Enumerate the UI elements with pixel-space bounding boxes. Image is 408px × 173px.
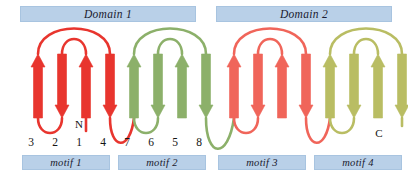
strand-arrow-s9 [275,54,289,118]
strand-arrow-s10 [251,54,265,118]
strand-arrow-s4 [103,54,117,118]
strand-number-8: 8 [192,136,206,148]
strand-number-5: 5 [168,136,182,148]
motif-3-label: motif 3 [246,157,278,168]
loop-3-4 [38,29,110,55]
strand-arrow-s3 [31,54,45,118]
strand-arrow-s6 [151,54,165,118]
loop-1-2 [62,39,86,54]
loop-10-9 [258,39,282,54]
topology-diagram-canvas: Domain 1 Domain 2 motif 1 motif 2 motif … [0,0,408,173]
domain-1-label: Domain 1 [84,8,132,20]
strand-number-4: 4 [96,136,110,148]
strand-arrow-s2 [55,54,69,118]
domain-2-label: Domain 2 [280,8,328,20]
motif-4-bar: motif 4 [314,155,402,170]
strand-arrow-s8 [199,54,213,118]
terminus-label-n: N [72,118,86,130]
loop-14-13 [354,39,378,54]
strand-arrow-s16 [395,54,408,118]
loop-12-15 [306,118,330,143]
motif-3-bar: motif 3 [218,155,306,170]
loop-7-6 [134,118,158,133]
interdomain-loop [206,118,234,149]
terminus-label-c: C [372,127,386,139]
loop-15-14 [330,118,354,133]
strand-arrow-s5 [175,54,189,118]
domain-2-bar: Domain 2 [216,6,392,22]
loop-7-8 [134,29,206,55]
motif-4-label: motif 4 [342,157,374,168]
strand-arrow-s7 [127,54,141,118]
loop-15-16 [330,29,402,55]
loop-2-3 [38,118,62,133]
motif-2-label: motif 2 [146,157,178,168]
strand-arrow-s15 [323,54,337,118]
strand-number-7: 7 [120,136,134,148]
domain-1-bar: Domain 1 [20,6,196,22]
motif-1-label: motif 1 [50,157,82,168]
strand-arrow-s13 [371,54,385,118]
motif-2-bar: motif 2 [118,155,206,170]
motif-1-bar: motif 1 [22,155,110,170]
loop-6-5 [158,39,182,54]
loop-11-12 [234,29,306,55]
strand-number-6: 6 [144,136,158,148]
strand-arrow-s14 [347,54,361,118]
strand-number-3: 3 [24,136,38,148]
strand-number-1: 1 [72,136,86,148]
loop-11-10 [234,118,258,133]
strand-arrow-s11 [227,54,241,118]
strand-arrow-s1 [79,54,93,118]
strand-number-2: 2 [48,136,62,148]
strand-arrow-s12 [299,54,313,118]
